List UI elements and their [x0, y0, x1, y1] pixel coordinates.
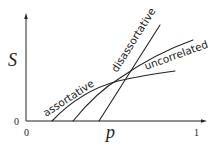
x-tick-zero: 0 — [24, 127, 29, 138]
y-tick-zero: 0 — [14, 116, 19, 127]
assortative-label: assortative — [41, 77, 97, 119]
uncorrelated-label: uncorrelated — [143, 38, 210, 72]
percolation-chart: S p 0 0 1 assortative disassortative unc… — [0, 0, 218, 145]
x-axis-arrow-icon — [201, 119, 207, 123]
x-tick-one: 1 — [194, 127, 199, 138]
y-axis-label: S — [8, 50, 17, 70]
x-axis-label: p — [104, 122, 115, 142]
y-axis-arrow-icon — [24, 13, 28, 19]
